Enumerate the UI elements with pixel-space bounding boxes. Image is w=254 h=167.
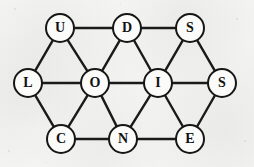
graph-node-s2[interactable]: S bbox=[207, 68, 237, 98]
graph-node-label: I bbox=[155, 76, 160, 91]
graph-node-d[interactable]: D bbox=[112, 13, 142, 43]
graph-node-c[interactable]: C bbox=[46, 124, 76, 154]
graph-node-label: N bbox=[118, 132, 128, 147]
graph-node-s1[interactable]: S bbox=[175, 13, 205, 43]
paper-speck bbox=[244, 140, 246, 142]
graph-node-label: O bbox=[90, 76, 101, 91]
graph-node-i[interactable]: I bbox=[143, 68, 173, 98]
paper-speck bbox=[8, 150, 10, 152]
graph-node-label: U bbox=[55, 21, 65, 36]
graph-node-n[interactable]: N bbox=[108, 124, 138, 154]
graph-node-o[interactable]: O bbox=[80, 68, 110, 98]
graph-node-label: C bbox=[56, 132, 66, 147]
graph-node-l[interactable]: L bbox=[13, 68, 43, 98]
graph-diagram: UDSLOISCNE bbox=[0, 0, 254, 167]
graph-node-e[interactable]: E bbox=[175, 124, 205, 154]
graph-node-label: E bbox=[185, 132, 194, 147]
paper-speck bbox=[120, 4, 121, 5]
node-layer: UDSLOISCNE bbox=[0, 0, 254, 167]
paper-speck bbox=[236, 18, 238, 20]
graph-node-label: S bbox=[186, 21, 194, 36]
paper-speck bbox=[46, 162, 47, 163]
graph-node-label: S bbox=[218, 76, 226, 91]
graph-node-label: L bbox=[23, 76, 32, 91]
graph-node-label: D bbox=[122, 21, 132, 36]
paper-speck bbox=[14, 8, 16, 10]
graph-node-u[interactable]: U bbox=[45, 13, 75, 43]
